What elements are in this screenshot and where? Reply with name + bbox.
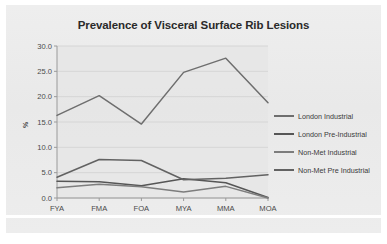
legend-swatch-london-pre-industrial — [274, 133, 294, 135]
svg-text:20.0: 20.0 — [37, 92, 52, 101]
svg-text:MYA: MYA — [176, 204, 193, 213]
svg-text:FMA: FMA — [91, 204, 108, 213]
svg-text:MMA: MMA — [217, 204, 236, 213]
legend-label-london-pre-industrial: London Pre-Industrial — [298, 130, 367, 139]
legend-label-non-met-pre-industrial: Non-Met Pre Industrial — [298, 166, 370, 175]
chart-card: Prevalence of Visceral Surface Rib Lesio… — [6, 5, 381, 233]
legend-label-non-met-industrial: Non-Met Industrial — [298, 148, 357, 157]
legend-label-london-industrial: London Industrial — [298, 112, 353, 121]
svg-text:30.0: 30.0 — [37, 42, 52, 51]
svg-text:FOA: FOA — [134, 204, 151, 213]
legend-item-non-met-industrial[interactable]: Non-Met Industrial — [274, 144, 387, 160]
svg-text:0.0: 0.0 — [41, 194, 52, 203]
svg-text:25.0: 25.0 — [37, 67, 52, 76]
svg-text:MOA: MOA — [259, 204, 277, 213]
chart-legend: London Industrial London Pre-Industrial … — [274, 108, 387, 180]
svg-text:FYA: FYA — [50, 204, 65, 213]
legend-swatch-non-met-pre-industrial — [274, 169, 294, 171]
svg-text:5.0: 5.0 — [41, 168, 52, 177]
legend-item-london-industrial[interactable]: London Industrial — [274, 108, 387, 124]
legend-item-london-pre-industrial[interactable]: London Pre-Industrial — [274, 126, 387, 142]
legend-swatch-london-industrial — [274, 115, 294, 117]
svg-text:15.0: 15.0 — [37, 118, 52, 127]
legend-item-non-met-pre-industrial[interactable]: Non-Met Pre Industrial — [274, 162, 387, 178]
bottom-divider — [6, 215, 381, 218]
svg-text:10.0: 10.0 — [37, 143, 52, 152]
svg-text:%: % — [22, 121, 29, 128]
legend-swatch-non-met-industrial — [274, 151, 294, 153]
